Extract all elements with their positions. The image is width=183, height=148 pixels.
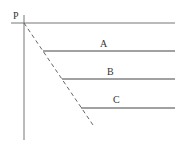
diagram-canvas: P A B C bbox=[0, 0, 183, 148]
dashed-diagonal-line bbox=[24, 23, 93, 125]
line-a-label: A bbox=[100, 38, 108, 49]
line-c-label: C bbox=[113, 94, 120, 105]
point-label-p: P bbox=[13, 10, 19, 21]
line-b-label: B bbox=[107, 66, 114, 77]
